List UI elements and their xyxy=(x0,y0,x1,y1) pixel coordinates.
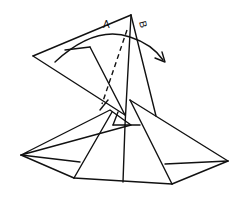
label-b: B xyxy=(137,20,149,30)
origami-diagram: A B xyxy=(0,0,244,203)
label-a: A xyxy=(103,19,110,30)
center-point xyxy=(100,15,156,125)
rotate-arrow-icon xyxy=(55,34,165,62)
flap xyxy=(33,15,131,115)
